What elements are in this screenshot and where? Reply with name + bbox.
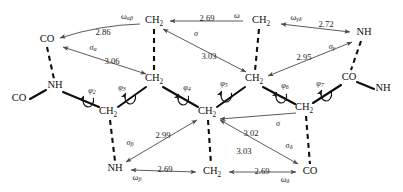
hb-co-nh-left (47, 47, 54, 79)
hb-ch2lowb-ch2bottom (208, 120, 211, 164)
atom-subscript: 2 (218, 170, 222, 178)
atom-label-co_right: CO (342, 71, 357, 82)
greek-label-omega_beta: ωβ (133, 173, 142, 183)
atom-symbol: CH (203, 165, 218, 176)
atom-label-co_farleft: CO (12, 92, 27, 103)
atom-subscript: 2 (160, 19, 164, 27)
greek-label-omega_plain_top: ω (234, 11, 240, 20)
greek-base: ω (234, 11, 240, 20)
distance-label-d_295: 2.95 (296, 52, 311, 62)
atom-symbol: NH (375, 82, 391, 93)
arrow-302 (220, 113, 296, 119)
bond-ch2midb-ch2lowc (263, 87, 295, 104)
diagram-canvas: COCH2CH2NHNHCOCH2CH2CONHCH2CH2CH2NHCH2CO… (0, 0, 403, 192)
atom-symbol: CH (245, 72, 260, 83)
atom-label-nh_bottom: NH (107, 162, 123, 173)
greek-subscript: 5 (225, 83, 228, 89)
atom-symbol: NH (356, 26, 372, 37)
molecular-diagram: COCH2CH2NHNHCOCH2CH2CONHCH2CH2CH2NHCH2CO… (0, 0, 403, 192)
atom-label-ch2_mid_a: CH2 (145, 72, 164, 85)
distance-label-d_272: 2.72 (318, 19, 333, 29)
torsion-label-phi6: φ6 (281, 81, 289, 91)
greek-label-sigma_alpha: σα (89, 43, 97, 53)
atom-label-ch2_top_a: CH2 (145, 14, 164, 27)
atom-label-ch2_low_b: CH2 (198, 105, 217, 118)
torsion-label-phi3: φ3 (118, 83, 126, 93)
greek-label-sigma_beta: σβ (126, 138, 133, 148)
atom-label-ch2_low_c: CH2 (295, 101, 314, 114)
distance-label-d_306: 3.06 (104, 56, 120, 66)
hb-ch2lowc-cobottom (306, 116, 310, 164)
hydrogen-bond-arrow-layer (60, 21, 352, 172)
distance-label-d_303_upper: 3.03 (201, 51, 216, 61)
atom-subscript: 2 (310, 106, 314, 114)
atom-symbol: CH (295, 101, 310, 112)
torsion-label-layer: φ2φ3φ4φ5φ6φ7 (88, 79, 325, 96)
distance-label-d_269_br: 2.69 (254, 166, 269, 176)
torsion-label-phi5: φ5 (220, 79, 228, 89)
greek-subscript: δ (290, 145, 293, 151)
greek-subscript: α (93, 47, 97, 53)
atom-subscript: 2 (267, 19, 271, 27)
greek-label-omega_ab: ωαβ (121, 12, 133, 22)
atom-symbol: CH (198, 105, 213, 116)
arrow-272-nh (281, 24, 350, 32)
atom-symbol: CH (252, 14, 267, 25)
greek-base: σ (194, 29, 199, 38)
atom-symbol: CO (342, 71, 357, 82)
greek-label-sigma_upper: σ (194, 29, 199, 38)
greek-subscript: 2 (93, 90, 96, 96)
greek-label-omega_gd: ωγδ (291, 13, 302, 23)
atom-subscript: 2 (260, 77, 264, 85)
hb-nhtr-coright (351, 41, 361, 70)
distance-label-d_303_lower: 3.03 (236, 146, 251, 156)
greek-label-sigma_delta: σδ (286, 141, 293, 151)
distance-label-d_302: 3.02 (243, 128, 258, 138)
atom-subscript: 2 (114, 110, 118, 118)
greek-subscript: γδ (296, 17, 301, 23)
atom-symbol: CH (145, 14, 160, 25)
atom-label-nh_farright: NH (375, 82, 391, 93)
atom-symbol: NH (107, 162, 123, 173)
greek-label-sigma_gamma: σγ (329, 42, 336, 52)
greek-subscript: 6 (286, 85, 289, 91)
distance-label-d_269_top: 2.69 (199, 13, 214, 23)
atom-label-co_bottom: CO (303, 165, 318, 176)
greek-base: σ (276, 119, 281, 128)
arrow-299 (126, 120, 197, 162)
torsion-label-phi2: φ2 (88, 86, 96, 96)
bond-co-nh-left (30, 90, 46, 99)
hb-ch2topb-ch2midb (255, 29, 259, 71)
distance-label-d_286: 2.86 (95, 27, 111, 37)
atom-symbol: CO (12, 92, 27, 103)
atom-label-ch2_mid_b: CH2 (245, 72, 264, 85)
greek-subscript: δ (286, 179, 289, 185)
atom-label-layer: COCH2CH2NHNHCOCH2CH2CONHCH2CH2CH2NHCH2CO (12, 14, 391, 178)
atom-label-co_topleft: CO (40, 33, 55, 44)
atom-symbol: CO (303, 165, 318, 176)
atom-label-ch2_bottom: CH2 (203, 165, 222, 178)
atom-symbol: CH (145, 72, 160, 83)
hb-ch2lowa-nhbottom (110, 120, 115, 161)
greek-label-layer: ωαβωωγδσασσγσβσσδωβωδ (89, 11, 335, 185)
greek-label-sigma_lower: σ (276, 119, 281, 128)
atom-label-ch2_top_b: CH2 (252, 14, 271, 27)
torsion-label-phi4: φ4 (183, 83, 191, 93)
atom-label-nh_topright: NH (356, 26, 372, 37)
bond-coright-nhfar (357, 82, 374, 89)
greek-subscript: β (137, 177, 141, 183)
atom-label-ch2_low_a: CH2 (99, 105, 118, 118)
greek-subscript: β (130, 142, 134, 148)
atom-symbol: NH (47, 79, 63, 90)
greek-subscript: 7 (321, 83, 325, 89)
atom-subscript: 2 (213, 110, 217, 118)
atom-label-nh_left: NH (47, 79, 63, 90)
greek-subscript: αβ (127, 16, 133, 22)
torsion-label-phi7: φ7 (316, 79, 325, 89)
greek-subscript: 4 (188, 87, 191, 93)
distance-label-layer: 2.862.692.723.063.032.952.993.023.032.69… (95, 13, 333, 176)
atom-symbol: CO (40, 33, 55, 44)
greek-subscript: 3 (122, 87, 126, 93)
atom-subscript: 2 (160, 77, 164, 85)
distance-label-d_269_bl: 2.69 (157, 164, 172, 174)
